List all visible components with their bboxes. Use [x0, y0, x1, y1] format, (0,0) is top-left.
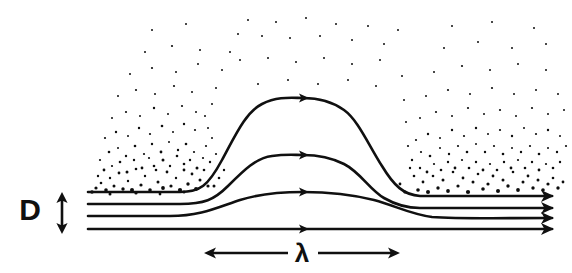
particle-dot [451, 129, 453, 131]
streamline-group [88, 98, 552, 229]
particle-dot [556, 186, 559, 189]
particle-dot [171, 45, 173, 47]
particle-dot [185, 143, 188, 146]
particle-dot [427, 133, 429, 135]
particle-dot [317, 83, 319, 85]
particle-dot [97, 175, 99, 177]
particle-dot [475, 143, 477, 145]
particle-dot [511, 135, 513, 137]
particle-dot [319, 35, 321, 37]
particle-dot [399, 183, 402, 186]
particle-dot [205, 145, 207, 147]
particle-dot [556, 151, 558, 153]
particle-dot [229, 51, 231, 53]
particle-dot [117, 147, 119, 149]
particle-dot [448, 153, 450, 155]
particle-dot [155, 169, 158, 172]
particle-dot [482, 169, 485, 172]
particle-dot [454, 167, 457, 170]
particle-dot [166, 171, 169, 174]
particle-dot [502, 179, 505, 182]
particle-dot [191, 173, 194, 176]
particle-dot [113, 185, 116, 188]
particle-dot [144, 175, 146, 177]
particle-dot [491, 87, 493, 89]
particle-dot [531, 107, 533, 109]
particle-dot [111, 165, 113, 167]
particle-dot [183, 169, 186, 172]
particle-dot [552, 167, 555, 170]
particle-dot [545, 43, 547, 45]
particle-dot [443, 47, 445, 49]
particle-dot [191, 91, 193, 93]
particle-dot [125, 111, 127, 113]
particle-dot [213, 185, 216, 188]
particle-dot [134, 145, 137, 148]
particle-dot [351, 39, 353, 41]
particle-dot [275, 21, 277, 23]
particle-dot [207, 127, 209, 129]
particle-dot [202, 157, 204, 159]
particle-dot [287, 79, 289, 81]
particle-dot [181, 105, 183, 107]
particle-dot [413, 175, 416, 178]
particle-dot [531, 161, 533, 163]
particle-dot [547, 147, 549, 149]
particle-dot [204, 115, 206, 117]
particle-dot [446, 189, 450, 193]
streamline-diagram: D λ [0, 0, 572, 273]
particle-dot [151, 67, 153, 69]
particle-dot [524, 167, 527, 170]
particle-dot [513, 93, 515, 95]
particle-dot [439, 147, 441, 149]
particle-dot [379, 59, 381, 61]
particle-dot [517, 63, 519, 65]
particle-dot [103, 169, 106, 172]
particle-dot [511, 47, 513, 49]
particle-dot [416, 188, 420, 192]
particle-dot [121, 187, 124, 190]
particle-dot [435, 111, 437, 113]
particle-dot [104, 137, 106, 139]
particle-dot [563, 109, 565, 111]
particle-dot [135, 168, 138, 171]
particle-dot [466, 151, 469, 154]
particle-dot [463, 135, 465, 137]
particle-dot [499, 109, 501, 111]
particle-dot [347, 79, 349, 81]
particle-dot [407, 145, 409, 147]
particle-dot [405, 121, 407, 123]
particle-dot [383, 43, 385, 45]
particle-dot [559, 161, 561, 163]
particle-dot [436, 186, 439, 189]
particle-dot [175, 71, 177, 73]
particle-dot [433, 163, 435, 165]
particle-dot [169, 184, 172, 187]
particle-dot [218, 177, 221, 180]
particle-dot [223, 169, 225, 171]
particle-dot [375, 85, 377, 87]
particle-dot [489, 69, 491, 71]
particle-dot [194, 129, 196, 131]
particle-dot [401, 75, 403, 77]
particle-dot [477, 41, 479, 43]
particle-dot [447, 89, 449, 91]
particle-dot [143, 153, 145, 155]
particle-dot [160, 151, 163, 154]
particle-dot [484, 151, 486, 153]
particle-dot [149, 133, 151, 135]
particle-dot [189, 159, 191, 161]
particle-dot [489, 163, 491, 165]
particle-dot [429, 155, 432, 158]
particle-dot [562, 181, 565, 184]
particle-dot [537, 179, 540, 182]
particle-dot [475, 127, 477, 129]
dimension-annotations [56, 192, 400, 259]
particle-dot [139, 115, 141, 117]
particle-dot [117, 95, 119, 97]
particle-dot [139, 183, 142, 186]
particle-dot [221, 69, 223, 71]
particle-dot [538, 169, 541, 172]
particle-dot [456, 184, 459, 187]
particle-dot [529, 145, 531, 147]
